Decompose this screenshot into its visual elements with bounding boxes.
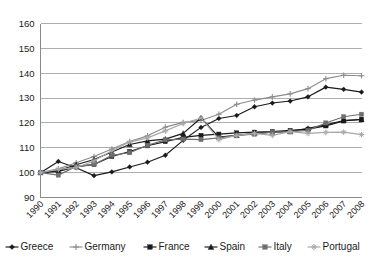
x-tick-label: 2000 [203,199,224,220]
data-point-marker [288,99,293,104]
legend-label: Germany [85,241,126,252]
series-portugal [38,115,365,175]
data-point-marker [109,148,115,154]
data-point-marker [234,101,240,107]
data-point-marker [359,90,364,95]
data-point-marker [199,137,203,141]
data-point-marker [341,87,346,92]
data-point-marker [287,129,293,135]
x-tick-label: 1993 [78,199,99,220]
data-point-marker [128,151,132,155]
data-point-marker [145,135,151,141]
data-point-marker [145,143,149,147]
data-point-marker [216,111,222,117]
data-point-marker [56,173,60,177]
line-chart: 90100110120130140150160 1990199119921993… [0,0,374,265]
y-tick-label: 90 [24,192,35,203]
data-point-marker [163,138,167,142]
series-line-italy [41,114,362,175]
series-germany [38,72,365,175]
x-tick-label: 1998 [167,199,188,220]
y-tick-label: 150 [19,43,35,54]
data-point-marker [73,165,79,171]
chart-canvas: 90100110120130140150160 1990199119921993… [0,0,374,265]
data-point-marker [148,245,153,250]
series-lines [38,72,365,178]
legend-item-spain[interactable]: Spain [205,241,246,252]
data-point-marker [270,94,276,100]
data-point-marker [270,133,276,139]
x-tick-label: 2007 [327,199,348,220]
x-axis: 1990199119921993199419951996199719981999… [24,199,366,220]
data-point-marker [145,160,150,165]
data-point-marker [323,130,329,136]
x-tick-label: 1996 [131,199,152,220]
plot-area: 90100110120130140150160 1990199119921993… [0,0,374,265]
data-point-marker [91,158,97,164]
legend-label: Italy [274,241,292,252]
gridlines [41,24,362,198]
data-point-marker [181,137,185,141]
y-tick-label: 120 [19,117,35,128]
x-tick-label: 2002 [238,199,259,220]
legend-item-germany[interactable]: Germany [70,241,126,252]
data-point-marker [56,167,62,173]
data-point-marker [198,115,204,121]
data-point-marker [92,173,97,178]
data-point-marker [270,101,275,106]
data-point-marker [263,245,268,250]
legend-label: Portugal [323,241,360,252]
data-point-marker [109,169,114,174]
chart-legend: GreeceGermanyFranceSpainItalyPortugal [6,241,360,252]
legend-item-italy[interactable]: Italy [259,241,292,252]
data-point-marker [311,244,317,250]
data-point-marker [234,133,240,139]
data-point-marker [324,121,328,125]
data-point-marker [216,137,222,143]
x-tick-label: 1995 [113,199,134,220]
x-tick-label: 2008 [345,199,366,220]
legend-label: France [159,241,191,252]
data-point-marker [127,165,132,170]
data-point-marker [306,94,311,99]
data-point-marker [199,133,203,137]
legend-item-greece[interactable]: Greece [6,241,54,252]
legend-item-france[interactable]: France [144,241,191,252]
series-line-germany [41,75,362,172]
x-tick-label: 1997 [149,199,170,220]
data-point-marker [305,131,311,137]
data-point-marker [305,86,311,92]
data-point-marker [359,132,365,138]
x-tick-label: 2005 [292,199,313,220]
data-point-marker [252,104,257,109]
data-point-marker [252,131,258,137]
data-point-marker [323,76,329,82]
data-point-marker [342,115,346,119]
legend-item-portugal[interactable]: Portugal [308,241,360,252]
data-point-marker [73,244,79,250]
data-point-marker [127,139,133,145]
x-tick-label: 1991 [42,199,63,220]
y-tick-label: 160 [19,18,35,29]
data-point-marker [323,85,328,90]
legend-label: Spain [220,241,246,252]
legend-label: Greece [21,241,54,252]
x-tick-label: 2004 [274,199,295,220]
data-point-marker [9,244,14,249]
y-tick-label: 110 [19,142,34,153]
data-point-marker [180,121,186,127]
x-tick-label: 2006 [310,199,331,220]
data-point-marker [163,128,169,134]
data-point-marker [359,73,365,79]
x-tick-label: 2003 [256,199,277,220]
data-point-marker [341,129,347,135]
x-tick-label: 1992 [60,199,81,220]
data-point-marker [110,153,114,157]
y-axis: 90100110120130140150160 [19,18,35,203]
y-tick-label: 140 [19,68,35,79]
x-tick-label: 1999 [185,199,206,220]
x-tick-label: 1994 [96,199,117,220]
y-tick-label: 100 [19,167,35,178]
y-tick-label: 130 [19,92,35,103]
data-point-marker [234,113,239,118]
